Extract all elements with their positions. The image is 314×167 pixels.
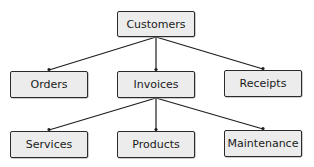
node-services: Services [10, 131, 88, 158]
node-maintenance: Maintenance [224, 130, 302, 157]
node-label: Orders [31, 78, 68, 91]
node-label: Receipts [240, 77, 287, 90]
node-receipts: Receipts [224, 70, 302, 97]
connector-line [156, 37, 263, 69]
connector-line [49, 37, 156, 70]
node-label: Maintenance [228, 137, 299, 150]
node-products: Products [117, 131, 195, 158]
connector-line [156, 98, 263, 129]
node-label: Invoices [133, 78, 178, 91]
hierarchy-diagram: Customers Orders Invoices Receipts Servi… [0, 0, 314, 167]
node-customers: Customers [117, 11, 195, 37]
node-orders: Orders [10, 71, 88, 98]
node-invoices: Invoices [117, 71, 195, 98]
node-label: Services [26, 138, 72, 151]
node-label: Customers [126, 18, 185, 31]
node-label: Products [132, 138, 180, 151]
connector-line [49, 98, 156, 130]
